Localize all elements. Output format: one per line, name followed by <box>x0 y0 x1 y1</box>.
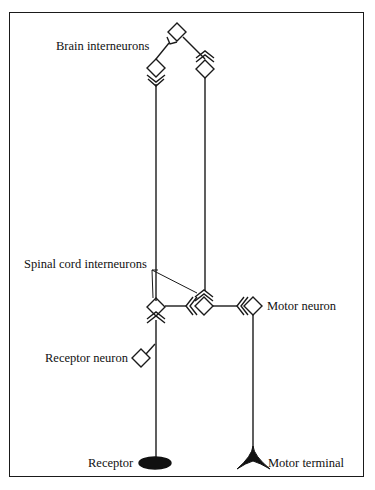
brain-left-interneuron <box>147 43 169 301</box>
motor-neuron-label: Motor neuron <box>267 300 336 313</box>
spinal-right-interneuron <box>186 290 237 315</box>
spinal-left-interneuron <box>147 298 186 462</box>
receptor <box>139 457 171 469</box>
motor-terminal-label: Motor terminal <box>268 457 344 470</box>
receptor-label: Receptor <box>88 457 133 470</box>
spinal-label-pointers <box>152 270 197 298</box>
motor-terminal <box>237 446 270 469</box>
spinal-cord-interneurons-label: Spinal cord interneurons <box>24 258 147 271</box>
receptor-neuron <box>132 344 155 367</box>
motor-neuron <box>237 297 262 449</box>
receptor-neuron-label: Receptor neuron <box>45 352 128 365</box>
neural-pathway-diagram <box>0 0 375 490</box>
brain-interneurons-label: Brain interneurons <box>56 40 149 53</box>
brain-top-interneuron <box>167 23 205 59</box>
brain-right-interneuron <box>196 51 214 291</box>
